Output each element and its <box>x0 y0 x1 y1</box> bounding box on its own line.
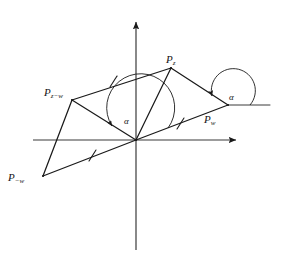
label-alpha-pw: α <box>229 93 234 102</box>
diagram-canvas <box>0 0 284 266</box>
label-pw-base: P <box>204 113 211 125</box>
label-pz-minus-w: Pz−w <box>44 83 63 100</box>
segment-pzw-to-pz <box>72 68 171 100</box>
label-pz: Pz <box>166 50 175 67</box>
axes-group <box>33 22 236 250</box>
label-alpha-origin: α <box>124 117 129 126</box>
label-pw-sub: w <box>211 119 216 127</box>
label-pz-minus-w-base: P <box>44 86 51 98</box>
label-pz-sub: z <box>173 59 176 67</box>
label-pz-minus-w-sub: z−w <box>51 92 63 100</box>
vertex-pw <box>227 104 229 106</box>
geometry-figure: Pz Pz−w Pw P−w α α <box>0 0 284 266</box>
segment-pmw-to-pzw <box>43 100 72 176</box>
vertex-pmw <box>42 175 44 177</box>
label-pw: Pw <box>204 110 215 127</box>
vertex-pzw <box>71 99 73 101</box>
label-pz-base: P <box>166 53 173 65</box>
vertex-pz <box>170 67 172 69</box>
segment-pmw-to-origin <box>43 140 136 176</box>
label-p-minus-w-sub: −w <box>15 177 24 185</box>
figure-edges-group <box>43 68 270 176</box>
vertex-origin <box>135 139 137 141</box>
label-p-minus-w-base: P <box>8 171 15 183</box>
label-p-minus-w: P−w <box>8 168 24 185</box>
